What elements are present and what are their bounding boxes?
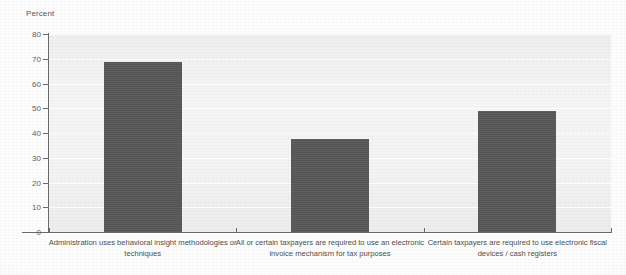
y-axis-tick-mark xyxy=(43,158,49,159)
y-axis-tick-labels: 01020304050607080 xyxy=(0,0,41,275)
gridline xyxy=(49,34,611,35)
y-axis-tick-label: 30 xyxy=(5,153,41,162)
x-axis-category-label: All or certain taxpayers are required to… xyxy=(228,237,431,259)
bar xyxy=(291,139,369,232)
x-axis-category-label: Administration uses behavioral insight m… xyxy=(41,237,244,259)
y-axis-tick-label: 50 xyxy=(5,104,41,113)
y-axis-tick-label: 20 xyxy=(5,178,41,187)
plot-area xyxy=(49,34,611,232)
y-axis-tick-label: 60 xyxy=(5,79,41,88)
y-axis-tick-mark xyxy=(43,84,49,85)
x-axis-tick-mark xyxy=(49,228,50,233)
bar-chart-figure: Percent 01020304050607080 Administration… xyxy=(0,0,626,275)
gridline xyxy=(49,59,611,60)
bar xyxy=(104,62,182,232)
y-axis-tick-mark xyxy=(43,108,49,109)
y-axis-tick-label: 0 xyxy=(5,228,41,237)
y-axis-tick-label: 10 xyxy=(5,203,41,212)
x-axis-tick-mark xyxy=(611,228,612,233)
bar-texture xyxy=(291,139,369,232)
x-axis-category-label: Certain taxpayers are required to use el… xyxy=(416,237,619,259)
bar-texture xyxy=(478,111,556,232)
bar-texture xyxy=(104,62,182,232)
y-axis-tick-mark xyxy=(43,59,49,60)
bar xyxy=(478,111,556,232)
y-axis-tick-label: 40 xyxy=(5,129,41,138)
y-axis-tick-mark xyxy=(43,183,49,184)
x-axis-tick-mark xyxy=(424,228,425,233)
y-axis-tick-mark xyxy=(43,34,49,35)
x-axis-line xyxy=(22,232,612,233)
x-axis-tick-mark xyxy=(236,228,237,233)
y-axis-tick-mark xyxy=(43,207,49,208)
y-axis-tick-label: 80 xyxy=(5,30,41,39)
y-axis-tick-label: 70 xyxy=(5,54,41,63)
y-axis-tick-mark xyxy=(43,133,49,134)
